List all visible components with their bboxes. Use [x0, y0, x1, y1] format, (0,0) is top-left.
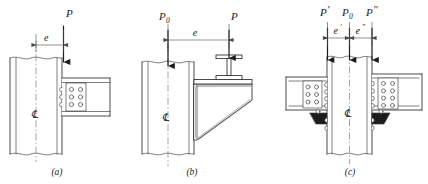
figure-canvas: P e ℄ (a): [0, 0, 428, 184]
engineering-figure: P e ℄ (a): [0, 0, 428, 184]
panel-c-right-web-connection-plate: [378, 78, 398, 109]
panel-c: P ′ P 0 P ″ e ′ e ″ ℄ (c): [286, 3, 422, 178]
panel-b-triangular-seat-bracket: [194, 80, 252, 141]
panel-b-caption: (b): [186, 167, 197, 178]
panel-c-dimension-e-double-prime-label: e: [356, 25, 361, 36]
panel-c-load-P0-label: P: [341, 6, 349, 18]
panel-c-caption: (c): [345, 167, 356, 178]
panel-c-dimension-e-double-prime-mark: ″: [362, 23, 366, 32]
panel-c-right-seat-angle: [372, 110, 390, 124]
panel-a-centerline-symbol: ℄: [31, 108, 39, 120]
panel-b-load-P0-subscript: 0: [166, 16, 170, 25]
panel-c-load-P-double-prime-label: P: [365, 6, 373, 18]
panel-b-dimension-e: [168, 24, 229, 48]
panel-b-load-P0-label: P: [158, 10, 166, 22]
panel-c-load-P0-subscript: 0: [349, 12, 353, 21]
panel-c-dimension-e-prime-label: e: [334, 25, 339, 36]
panel-c-dimension-e-prime: [328, 22, 350, 46]
panel-a-web-connection-plate: [66, 83, 86, 111]
panel-b-dimension-e-label: e: [193, 27, 198, 38]
panel-a: P e ℄ (a): [10, 7, 110, 178]
svg-text:℄: ℄: [31, 108, 39, 120]
panel-c-dimension-e-prime-mark: ′: [340, 23, 342, 32]
panel-c-left-seat-angle: [310, 110, 327, 124]
panel-c-load-P-prime-mark: ′: [327, 3, 330, 15]
panel-c-load-P-double-prime-mark: ″: [373, 3, 378, 15]
panel-c-load-P-prime-label: P: [319, 6, 327, 18]
panel-b-load-P-label: P: [230, 10, 238, 22]
panel-b-i-beam-section: [216, 55, 242, 80]
panel-a-load-P-label: P: [65, 7, 73, 19]
panel-b-centerline-symbol: ℄: [162, 111, 170, 123]
panel-a-dimension-e-label: e: [44, 32, 49, 43]
panel-b: P 0 P e ℄ (b): [142, 10, 252, 178]
panel-a-caption: (a): [51, 167, 62, 178]
panel-a-dimension-e: [36, 30, 64, 52]
panel-c-centerline-symbol: ℄: [344, 107, 352, 119]
panel-a-flange-bolts-section: [60, 87, 62, 107]
